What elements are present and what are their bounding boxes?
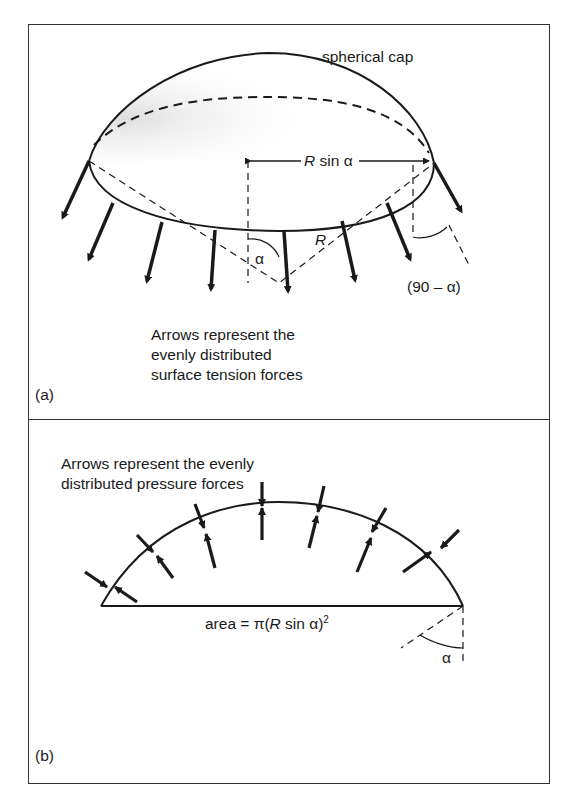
alpha-label: α bbox=[255, 249, 264, 268]
alpha-label-b: α bbox=[442, 648, 451, 667]
complement-angle-label: (90 – α) bbox=[407, 277, 461, 296]
radius-label: R bbox=[315, 230, 326, 249]
cap-label: spherical cap bbox=[322, 47, 413, 66]
cap-arc bbox=[101, 502, 463, 606]
sin-alpha: sin α bbox=[315, 152, 352, 169]
panel-b-tag: (b) bbox=[35, 746, 54, 765]
rsin-label: R sin α bbox=[304, 151, 353, 170]
pressure-arrows bbox=[85, 482, 459, 602]
tension-caption: Arrows represent the evenly distributed … bbox=[151, 325, 303, 385]
panel-b: Arrows represent the evenly distributed … bbox=[28, 420, 550, 784]
panel-a-tag: (a) bbox=[35, 385, 54, 404]
pressure-caption: Arrows represent the evenly distributed … bbox=[61, 454, 254, 494]
area-label: area = π(R sin α)2 bbox=[205, 610, 329, 633]
r-var: R bbox=[304, 152, 315, 169]
panel-a: spherical cap R sin α R α (90 – α) Arrow… bbox=[28, 24, 550, 420]
rim-ellipse bbox=[89, 161, 434, 231]
